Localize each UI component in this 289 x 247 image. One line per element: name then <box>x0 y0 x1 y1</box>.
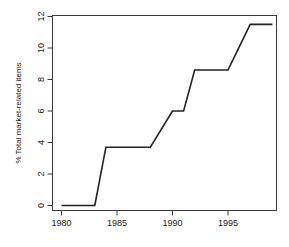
y-tick-label: 6 <box>36 108 46 113</box>
x-tick-label: 1995 <box>218 218 238 228</box>
y-tick-label: 2 <box>36 171 46 176</box>
y-axis-title: % Total market-related items <box>14 62 23 163</box>
y-axis-ticks <box>48 17 53 206</box>
x-tick-label: 1985 <box>107 218 127 228</box>
y-tick-label: 0 <box>36 203 46 208</box>
x-axis-ticks <box>62 211 229 216</box>
y-tick-label: 4 <box>36 140 46 145</box>
x-tick-label: 1990 <box>162 218 182 228</box>
data-series-line <box>62 24 273 205</box>
chart-figure: 0 2 4 6 8 10 12 % Total market-related i… <box>0 0 289 247</box>
y-tick-label: 12 <box>36 11 46 21</box>
x-tick-label: 1980 <box>51 218 71 228</box>
plot-frame <box>53 16 277 211</box>
y-tick-label: 10 <box>36 43 46 53</box>
line-chart: 0 2 4 6 8 10 12 % Total market-related i… <box>0 0 289 247</box>
x-axis-tick-labels: 1980 1985 1990 1995 <box>51 218 238 228</box>
y-axis-tick-labels: 0 2 4 6 8 10 12 <box>36 11 46 208</box>
y-tick-label: 8 <box>36 77 46 82</box>
